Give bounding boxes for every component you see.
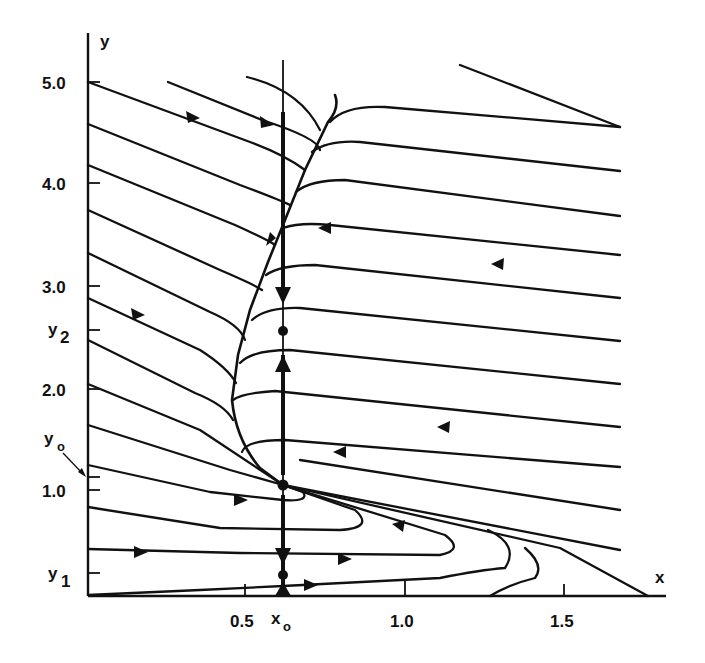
svg-text:x: x: [271, 609, 281, 628]
svg-text:o: o: [283, 619, 291, 634]
phase-portrait-diagram: y x 5.0 4.0 3.0 2.0 1.0 y 2 y o y 1 0.5 …: [0, 0, 705, 663]
x-axis-label: x: [655, 568, 665, 587]
down-arrow-icon: [275, 287, 291, 304]
y1-label: y 1: [48, 564, 70, 591]
y2-label: y 2: [48, 320, 69, 347]
y-tick-4: 4.0: [42, 175, 66, 194]
y-axis-label: y: [100, 32, 110, 51]
x-tick-1-0: 1.0: [390, 612, 414, 631]
svg-text:1: 1: [61, 572, 70, 591]
up-arrow-icon: [275, 582, 291, 596]
right-arrow-icon: [304, 579, 318, 591]
right-arrow-icon: [260, 116, 274, 128]
left-trajectories: [88, 77, 648, 596]
svg-text:o: o: [57, 439, 65, 454]
y-tick-1: 1.0: [42, 482, 66, 501]
y0-label: y o: [44, 429, 65, 454]
equilibrium-dot-y2: [278, 326, 288, 336]
x-tick-0-5: 0.5: [230, 612, 254, 631]
right-trajectories: [233, 65, 620, 467]
left-arrow-icon: [491, 258, 504, 270]
right-arrow-icon: [134, 546, 148, 558]
up-arrow-icon: [275, 355, 291, 372]
svg-text:2: 2: [60, 328, 69, 347]
svg-text:y: y: [48, 564, 58, 583]
y-tick-2: 2.0: [42, 381, 66, 400]
x0-label: x o: [271, 609, 291, 634]
equilibrium-dot-y1: [278, 570, 288, 580]
svg-text:y: y: [44, 429, 54, 448]
svg-text:y: y: [48, 320, 58, 339]
y-ticks: [88, 82, 100, 573]
left-arrow-icon: [333, 446, 346, 458]
down-arrow-icon: [275, 548, 291, 565]
y-tick-5: 5.0: [42, 74, 66, 93]
y-tick-3: 3.0: [42, 278, 66, 297]
x-tick-1-5: 1.5: [550, 612, 574, 631]
left-arrow-icon: [437, 421, 450, 433]
right-arrow-icon: [131, 308, 145, 320]
